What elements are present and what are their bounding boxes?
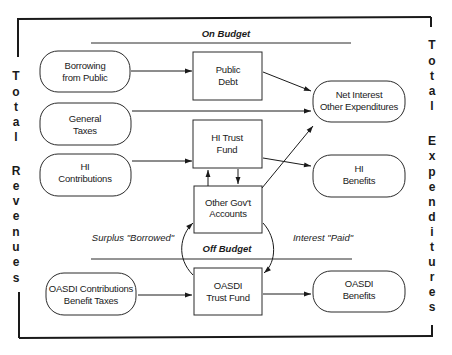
arrow-surplus-borrowed-curve	[182, 223, 193, 275]
side-letter: T	[428, 38, 436, 52]
hi-benefits-label-line1: HI	[354, 163, 363, 174]
side-letter: a	[13, 115, 20, 129]
side-letter: a	[429, 84, 436, 98]
hi-trust-fund-label-line1: HI Trust	[211, 132, 243, 143]
node-public-debt: Public Debt	[193, 52, 262, 100]
public-debt-label-line1: Public	[216, 64, 241, 75]
oasdi-trust-fund-label-line2: Trust Fund	[206, 292, 250, 303]
side-letter: n	[12, 225, 19, 239]
side-letter: r	[430, 270, 435, 284]
node-general-taxes: General Taxes	[40, 103, 131, 145]
other-govt-accounts-label-line2: Accounts	[209, 208, 247, 219]
interest-paid-label: Interest "Paid"	[293, 232, 354, 243]
side-letter: R	[12, 164, 21, 178]
hi-contributions-label-line1: HI	[80, 161, 89, 172]
side-letter: e	[13, 255, 20, 269]
hi-benefits-label-line2: Benefits	[343, 175, 376, 186]
general-taxes-pill-shape	[40, 103, 131, 145]
node-hi-trust-fund: HI Trust Fund	[193, 120, 262, 168]
side-letter: d	[428, 210, 435, 224]
borrowing-label-line2: from Public	[62, 72, 108, 83]
side-letter: t	[14, 100, 18, 114]
oasdi-contributions-label-line2: Benefit Taxes	[64, 295, 119, 306]
borrowing-label-line1: Borrowing	[65, 60, 106, 71]
node-hi-contributions: HI Contributions	[40, 154, 131, 196]
side-letter: E	[428, 134, 436, 148]
oasdi-trust-fund-label-line1: OASDI	[214, 280, 243, 291]
net-interest-label-line1: Net Interest	[336, 89, 383, 100]
side-letter: x	[429, 149, 436, 163]
side-letter: u	[428, 255, 435, 269]
side-letter: u	[12, 240, 19, 254]
side-letter: l	[14, 130, 17, 144]
total-revenues-label: T o t a l R e v e n u e s	[12, 69, 21, 285]
on-budget-label: On Budget	[202, 28, 251, 39]
node-net-interest-other-expenditures: Net Interest Other Expenditures	[313, 81, 405, 122]
node-borrowing-from-public: Borrowing from Public	[40, 51, 130, 92]
arrow-public-debt-to-net-interest	[263, 72, 311, 91]
oasdi-contributions-label-line1: OASDI Contributions	[49, 283, 134, 294]
side-letter: e	[13, 179, 20, 193]
oasdi-benefits-label-line2: Benefits	[343, 290, 376, 301]
side-letter: o	[12, 85, 19, 99]
side-letter: v	[13, 194, 20, 208]
hi-trust-fund-label-line2: Fund	[217, 144, 238, 155]
other-govt-accounts-label-line1: Other Gov't	[205, 197, 252, 208]
flow-arrows	[131, 71, 313, 295]
side-letter: e	[429, 180, 436, 194]
side-letter: t	[430, 69, 434, 83]
side-letter: s	[429, 300, 436, 314]
total-expenditures-label: T o t a l E x p e n d i t u r e s	[428, 38, 436, 314]
hi-contributions-label-line2: Contributions	[58, 173, 112, 184]
side-letter: T	[12, 69, 20, 83]
arrow-hi-trust-fund-to-hi-benefits	[263, 158, 311, 166]
public-debt-label-line2: Debt	[218, 76, 238, 87]
arrow-other-accounts-to-net-interest	[262, 126, 313, 188]
side-letter: i	[430, 225, 433, 239]
node-hi-benefits: HI Benefits	[313, 155, 405, 197]
side-letter: p	[428, 165, 435, 179]
surplus-borrowed-label: Surplus "Borrowed"	[92, 232, 175, 243]
off-budget-label: Off Budget	[203, 243, 253, 254]
federal-budget-flow-diagram: T o t a l R e v e n u e s T o t a l E x …	[0, 0, 452, 355]
side-letter: e	[13, 209, 20, 223]
oasdi-contributions-pill-shape	[46, 273, 136, 315]
side-letter: l	[430, 99, 433, 113]
oasdi-benefits-label-line1: OASDI	[345, 278, 374, 289]
side-letter: n	[428, 195, 435, 209]
node-other-govt-accounts: Other Gov't Accounts	[194, 186, 262, 233]
frame-top-line	[17, 17, 431, 19]
net-interest-label-line2: Other Expenditures	[320, 101, 399, 112]
general-taxes-label-line2: Taxes	[73, 125, 97, 136]
node-oasdi-trust-fund: OASDI Trust Fund	[194, 268, 262, 315]
side-letter: t	[430, 240, 434, 254]
side-letter: s	[13, 271, 20, 285]
arrow-interest-paid-curve	[263, 223, 274, 273]
node-oasdi-benefits: OASDI Benefits	[313, 271, 405, 312]
side-letter: e	[429, 285, 436, 299]
frame-bottom-line	[19, 336, 432, 338]
node-oasdi-contributions: OASDI Contributions Benefit Taxes	[46, 273, 136, 315]
general-taxes-label-line1: General	[69, 113, 101, 124]
side-letter: o	[428, 54, 435, 68]
